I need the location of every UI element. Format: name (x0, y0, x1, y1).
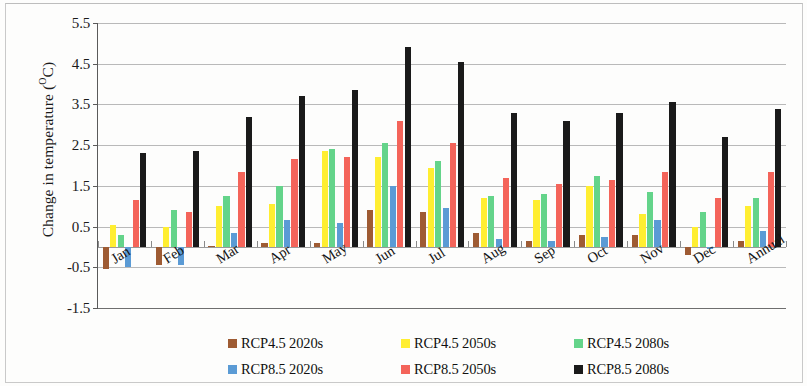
x-axis-tickmark (680, 241, 681, 247)
bar (382, 143, 388, 247)
bar (193, 151, 199, 247)
bar (586, 186, 592, 247)
bar (171, 210, 177, 247)
legend-label: RCP4.5 2050s (414, 335, 496, 352)
bar (103, 247, 109, 269)
x-axis-tickmark (521, 241, 522, 247)
legend-item[interactable]: RCP8.5 2020s (228, 357, 401, 381)
legend-item[interactable]: RCP8.5 2080s (574, 357, 747, 381)
bar (133, 200, 139, 247)
x-axis-tickmark (151, 241, 152, 247)
y-axis-tick-label: 4.5 (44, 55, 90, 72)
x-axis-tickmark (627, 241, 628, 247)
bar (450, 143, 456, 247)
legend-color-swatch (401, 339, 410, 348)
y-axis-tick-label: 2.5 (44, 137, 90, 154)
x-axis-tickmark (310, 241, 311, 247)
bar (390, 186, 396, 247)
y-axis-tick-label: 1.5 (44, 177, 90, 194)
bar (443, 208, 449, 247)
gridline (98, 308, 786, 309)
y-axis-tick-label: 5.5 (44, 15, 90, 32)
bar (261, 243, 267, 247)
y-axis-tick-label: -0.5 (44, 259, 90, 276)
bar (405, 47, 411, 247)
bar (299, 96, 305, 247)
x-axis-tickmark (733, 241, 734, 247)
bar (481, 198, 487, 247)
legend-label: RCP4.5 2080s (587, 335, 669, 352)
legend-label: RCP4.5 2020s (241, 335, 323, 352)
bar (594, 176, 600, 247)
x-axis-tickmark (363, 241, 364, 247)
bar (700, 212, 706, 247)
bar (503, 178, 509, 247)
x-axis-tickmark (204, 241, 205, 247)
plot-box: JanFebMarAprMayJunJulAugSepOctNovDecAnnu… (97, 23, 785, 308)
bar (579, 235, 585, 247)
chart-figure: Change in temperature (OC) 5.54.53.52.51… (0, 0, 807, 386)
bar (269, 204, 275, 247)
bar (163, 227, 169, 247)
bar (110, 225, 116, 247)
bar (397, 121, 403, 247)
bar (473, 233, 479, 247)
legend-item[interactable]: RCP4.5 2050s (401, 331, 574, 355)
legend-color-swatch (574, 339, 583, 348)
bar (775, 109, 781, 247)
bar (291, 159, 297, 247)
bar (738, 241, 744, 247)
legend-color-swatch (228, 339, 237, 348)
bar (208, 246, 214, 247)
bar (632, 235, 638, 247)
bar (722, 137, 728, 247)
bar (367, 210, 373, 247)
y-axis-tick-label: -1.5 (44, 300, 90, 317)
bar (223, 196, 229, 247)
legend-row-rcp85: RCP8.5 2020sRCP8.5 2050sRCP8.5 2080s (228, 357, 748, 381)
bar (556, 184, 562, 247)
y-axis-tickmark (93, 308, 98, 309)
bar (156, 247, 162, 265)
bar (511, 113, 517, 247)
bar (526, 241, 532, 247)
bar (322, 151, 328, 247)
bar (488, 196, 494, 247)
bar (541, 194, 547, 247)
x-axis-tickmark (416, 241, 417, 247)
bar (715, 198, 721, 247)
legend-label: RCP8.5 2080s (587, 361, 669, 378)
x-axis-tickmark (257, 241, 258, 247)
legend-color-swatch (401, 365, 410, 374)
legend-label: RCP8.5 2050s (414, 361, 496, 378)
legend-item[interactable]: RCP4.5 2020s (228, 331, 401, 355)
bar (662, 172, 668, 247)
legend-color-swatch (228, 365, 237, 374)
bar (692, 227, 698, 247)
x-axis-tickmark (574, 241, 575, 247)
bar (246, 117, 252, 247)
bar (344, 157, 350, 247)
bar (639, 214, 645, 247)
legend-item[interactable]: RCP4.5 2080s (574, 331, 747, 355)
bar (533, 200, 539, 247)
x-axis-tickmark (98, 241, 99, 247)
bar (140, 153, 146, 247)
bar (428, 168, 434, 247)
x-axis-tickmark (468, 241, 469, 247)
bar (563, 121, 569, 247)
y-axis-tick-labels: 5.54.53.52.51.50.5-0.5-1.5 (44, 0, 90, 386)
bar (753, 198, 759, 247)
bar (186, 212, 192, 247)
bar (314, 243, 320, 247)
bar (329, 149, 335, 247)
bar (216, 206, 222, 247)
bar (616, 113, 622, 247)
bar (669, 102, 675, 247)
legend-item[interactable]: RCP8.5 2050s (401, 357, 574, 381)
bar (238, 172, 244, 247)
legend-label: RCP8.5 2020s (241, 361, 323, 378)
y-axis-tick-label: 3.5 (44, 96, 90, 113)
y-axis-tick-label: 0.5 (44, 218, 90, 235)
bar (609, 180, 615, 247)
